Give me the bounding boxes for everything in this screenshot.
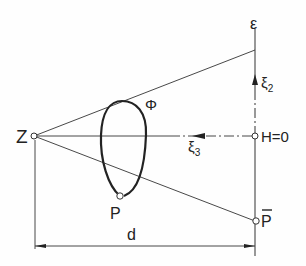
label-p: P [110,205,121,222]
point-p-bar [253,218,259,224]
label-phi: Φ [145,96,157,113]
xi2-arrow-icon [252,74,258,85]
label-xi2-sub: 2 [268,83,274,94]
label-z: Z [16,126,28,147]
label-xi3-sub: 3 [195,147,201,158]
label-d: d [127,226,136,243]
projection-diagram: Z P P ε H=0 Φ ξ2 ξ3 d [0,0,306,266]
label-epsilon: ε [250,15,257,32]
diagram-canvas: Z P P ε H=0 Φ ξ2 ξ3 d [0,0,306,266]
dimension-arrow-left-icon [35,244,46,248]
point-z [31,133,37,139]
label-h0: H=0 [261,128,289,145]
dimension-arrow-right-icon [244,244,255,248]
label-p-bar: P [261,213,272,230]
label-xi2: ξ2 [261,74,274,94]
label-xi3: ξ3 [188,138,201,158]
curve-phi [101,101,146,196]
point-p [117,193,123,199]
point-h [252,133,258,139]
